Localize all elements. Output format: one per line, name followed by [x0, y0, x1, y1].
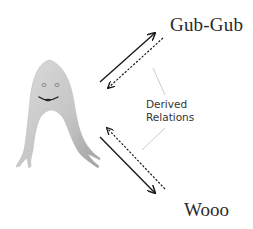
arrow-trained-to-gubgub [100, 33, 155, 82]
annotation-line-2: Relations [146, 111, 194, 124]
ghost-smile-center [45, 99, 51, 101]
annotation-line-1: Derived [146, 98, 194, 111]
ghost-body [16, 60, 100, 168]
node-label-gubgub: Gub-Gub [170, 14, 243, 36]
derived-relations-diagram: Gub-Gub Wooo Derived Relations [0, 0, 253, 229]
annotation-derived-relations: Derived Relations [146, 98, 194, 124]
arrow-derived-from-wooo [107, 128, 165, 189]
arrow-derived-from-gubgub [108, 38, 163, 88]
node-label-wooo: Wooo [184, 199, 229, 221]
ghost-creature-figure [16, 60, 100, 168]
pointer-line-lower [142, 128, 165, 150]
pointer-line-upper [153, 68, 165, 95]
